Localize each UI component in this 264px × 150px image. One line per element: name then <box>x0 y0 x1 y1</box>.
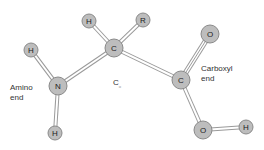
alpha-carbon-label: Cα <box>113 78 121 89</box>
atom-label: C <box>111 44 117 53</box>
amino-end-label: Amino end <box>10 83 33 103</box>
atom-label: N <box>55 82 61 91</box>
atom-h2: H <box>48 126 62 140</box>
atom-o2: O <box>194 121 212 139</box>
alpha-subscript: α <box>119 84 121 89</box>
carboxyl-end-label: Carboxyl end <box>201 64 233 84</box>
atom-label: H <box>52 129 58 138</box>
atom-label: O <box>200 126 206 135</box>
atom-label: O <box>207 30 213 39</box>
atom-label: H <box>28 46 34 55</box>
atom-label: C <box>178 76 184 85</box>
atom-h1: H <box>24 43 38 57</box>
atom-c: C <box>172 71 190 89</box>
bond-n-ca <box>58 48 114 86</box>
atom-label: R <box>140 16 146 25</box>
atom-label: H <box>243 123 249 132</box>
atom-h4: H <box>239 120 253 134</box>
bond-ca-c <box>114 48 181 80</box>
atom-n: N <box>49 77 67 95</box>
atom-r: R <box>136 13 150 27</box>
atom-label: H <box>86 17 92 26</box>
atom-h3: H <box>82 14 96 28</box>
atom-ca: C <box>105 39 123 57</box>
atom-o1: O <box>201 25 219 43</box>
